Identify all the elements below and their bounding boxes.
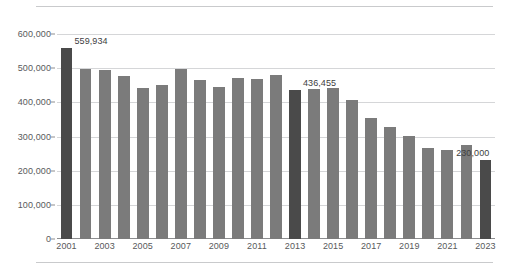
bar-2016: [346, 100, 358, 239]
y-axis-tick-mark: [51, 102, 55, 103]
top-divider-rule: [36, 6, 493, 7]
y-axis-tick-label: 600,000: [18, 29, 51, 39]
x-axis-tick-label: 2007: [171, 241, 191, 251]
bar-2022: [461, 145, 473, 239]
y-axis-tick-label: 100,000: [18, 200, 51, 210]
y-axis-tick-mark: [51, 239, 55, 240]
bar-2019: [403, 136, 415, 239]
x-axis-tick-label: 2017: [361, 241, 381, 251]
x-axis-tick-label: 2013: [285, 241, 305, 251]
x-axis-tick-label: 2011: [247, 241, 267, 251]
plot-area: 559,934436,455230,000: [57, 34, 495, 239]
y-axis: 0100,000200,000300,000400,000500,000600,…: [0, 34, 51, 239]
y-axis-tick-mark: [51, 136, 55, 137]
bar-2009: [213, 87, 225, 239]
y-axis-tick-mark: [51, 170, 55, 171]
x-axis-tick-label: 2015: [323, 241, 343, 251]
y-axis-tick-mark: [51, 34, 55, 35]
gridline: [57, 34, 495, 35]
bar-2012: [270, 75, 282, 239]
bar-2017: [365, 118, 377, 239]
y-axis-tick-label: 200,000: [18, 166, 51, 176]
gridline: [57, 68, 495, 69]
x-axis-tick-label: 2009: [209, 241, 229, 251]
bar-2003: [99, 70, 111, 239]
bottom-divider-rule: [36, 262, 493, 263]
x-axis-tick-label: 2019: [399, 241, 419, 251]
bar-2010: [232, 78, 244, 239]
bar-2005: [137, 88, 149, 239]
bar-2008: [194, 80, 206, 239]
x-axis-tick-label: 2003: [94, 241, 114, 251]
bar-2006: [156, 85, 168, 239]
x-axis-tick-label: 2005: [132, 241, 152, 251]
y-axis-tick-label: 500,000: [18, 63, 51, 73]
bar-chart-figure: 0100,000200,000300,000400,000500,000600,…: [0, 0, 511, 271]
bar-2007: [175, 69, 187, 239]
x-axis: 2001200320052007200920112013201520172019…: [57, 241, 495, 255]
bar-2020: [422, 148, 434, 239]
bar-2021: [441, 150, 453, 239]
bar-2015: [327, 88, 339, 239]
bar-value-label-2001: 559,934: [74, 36, 107, 46]
bar-2002: [80, 69, 92, 239]
y-axis-tick-mark: [51, 68, 55, 69]
bar-2014: [308, 89, 320, 239]
bar-value-label-2013: 436,455: [303, 78, 336, 88]
bar-2018: [384, 127, 396, 239]
bar-2011: [251, 79, 263, 239]
bar-2004: [118, 76, 130, 239]
y-axis-tick-label: 400,000: [18, 97, 51, 107]
x-axis-tick-label: 2021: [437, 241, 457, 251]
bar-value-label-2023: 230,000: [456, 148, 489, 158]
bar-2001: [61, 48, 73, 239]
x-axis-tick-label: 2023: [475, 241, 495, 251]
bar-2013: [289, 90, 301, 239]
x-axis-tick-label: 2001: [56, 241, 76, 251]
bar-2023: [480, 160, 492, 239]
y-axis-tick-label: 300,000: [18, 132, 51, 142]
y-axis-tick-mark: [51, 204, 55, 205]
